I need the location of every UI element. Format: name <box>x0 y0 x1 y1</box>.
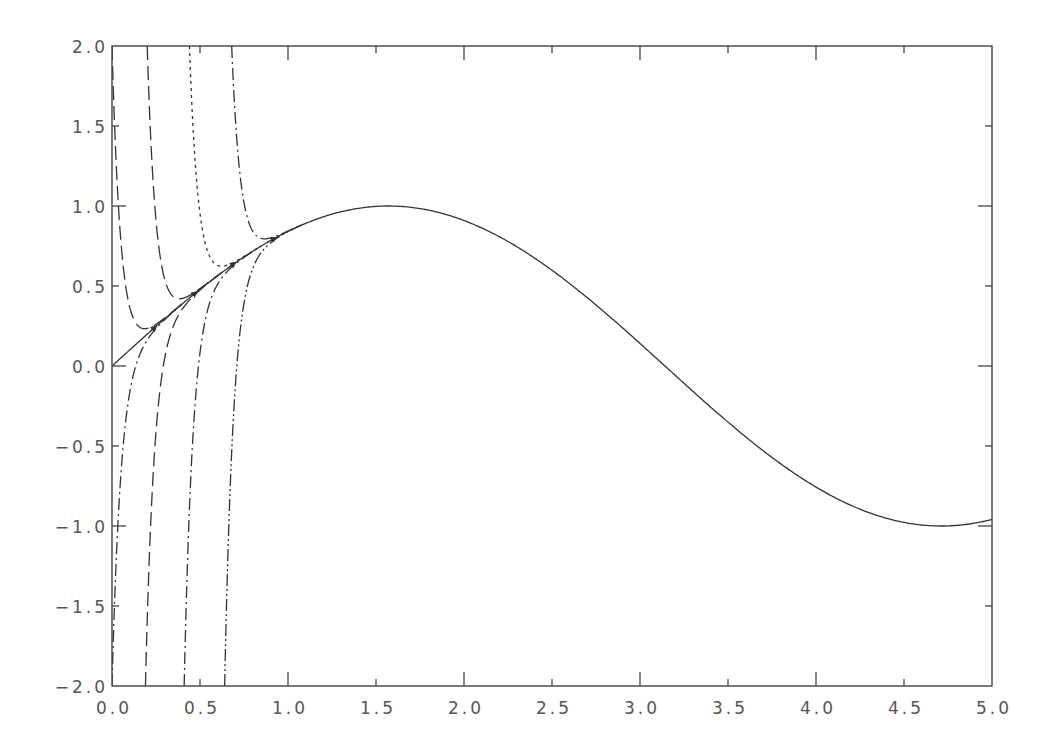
x-tick-label: 0.0 <box>96 698 132 718</box>
x-tick-label: 2.5 <box>536 698 572 718</box>
y-tick-label: −1.0 <box>55 517 108 537</box>
transient-curve <box>147 46 222 299</box>
transient-curve <box>225 225 302 686</box>
x-tick-label: 4.5 <box>888 698 924 718</box>
y-tick-label: 1.5 <box>72 117 108 137</box>
transient-curve <box>189 46 261 266</box>
y-tick-label: −1.5 <box>55 597 108 617</box>
y-tick-label: 1.0 <box>72 197 108 217</box>
plot-frame <box>112 46 992 686</box>
x-tick-label: 2.0 <box>448 698 484 718</box>
x-tick-label: 0.5 <box>184 698 220 718</box>
x-tick-label: 3.5 <box>712 698 748 718</box>
y-tick-label: 0.5 <box>72 277 108 297</box>
x-tick-label: 4.0 <box>800 698 836 718</box>
sine-curve <box>112 206 992 526</box>
transient-curve <box>232 46 302 239</box>
y-axis-tick-labels: −2.0−1.5−1.0−0.50.00.51.01.52.0 <box>55 37 108 697</box>
axis-ticks <box>112 46 992 686</box>
y-tick-label: −0.5 <box>55 437 108 457</box>
x-tick-label: 5.0 <box>976 698 1012 718</box>
line-chart: 0.00.51.01.52.02.53.03.54.04.55.0 −2.0−1… <box>0 0 1064 751</box>
x-tick-label: 3.0 <box>624 698 660 718</box>
y-tick-label: 0.0 <box>72 357 108 377</box>
transient-curve <box>112 304 182 686</box>
x-axis-tick-labels: 0.00.51.01.52.02.53.03.54.04.55.0 <box>96 698 1012 718</box>
transient-curve <box>184 246 261 686</box>
x-tick-label: 1.0 <box>272 698 308 718</box>
plot-curves <box>112 46 992 686</box>
x-tick-label: 1.5 <box>360 698 396 718</box>
y-tick-label: 2.0 <box>72 37 108 57</box>
direction-arrows <box>151 238 276 331</box>
y-tick-label: −2.0 <box>55 677 108 697</box>
transient-curve <box>112 46 182 329</box>
transient-curve <box>145 272 222 686</box>
